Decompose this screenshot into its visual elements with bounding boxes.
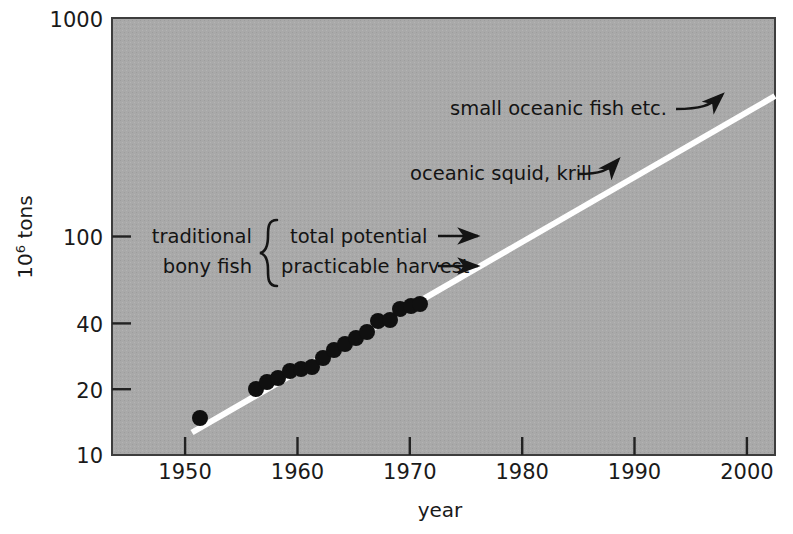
data-point (412, 296, 428, 312)
annotation-small-oceanic-fish-label: small oceanic fish etc. (450, 97, 667, 120)
annotation-total-potential-label: total potential (290, 225, 428, 248)
figure-container: 1000 100 40 20 10 106 tons 1950 1960 197… (0, 0, 793, 534)
x-tick-label-1990: 1990 (608, 460, 661, 484)
y-axis-title-exponent: 6 (13, 245, 28, 253)
x-tick-label-1980: 1980 (495, 460, 548, 484)
x-tick-label-1960: 1960 (271, 460, 324, 484)
svg-text:106 tons: 106 tons (13, 195, 37, 278)
x-tick-label-2000: 2000 (720, 460, 773, 484)
x-tick-label-1970: 1970 (383, 460, 436, 484)
y-tick-label-40: 40 (76, 313, 103, 337)
y-tick-label-1000: 1000 (50, 8, 103, 32)
chart-svg: 1000 100 40 20 10 106 tons 1950 1960 197… (0, 0, 793, 534)
y-axis-title-unit: tons (13, 195, 37, 245)
annotation-oceanic-squid-krill-label: oceanic squid, krill (410, 162, 592, 185)
annotation-traditional-label: traditional (152, 225, 252, 248)
x-axis-title: year (418, 498, 463, 522)
annotation-bony-fish-label: bony fish (163, 255, 252, 278)
y-tick-label-10: 10 (76, 444, 103, 468)
y-axis-title-base: 10 (13, 253, 37, 278)
data-point (192, 410, 208, 426)
y-tick-label-20: 20 (76, 379, 103, 403)
x-tick-label-1950: 1950 (158, 460, 211, 484)
y-axis-title: 106 tons (13, 195, 37, 278)
y-tick-label-100: 100 (63, 226, 103, 250)
